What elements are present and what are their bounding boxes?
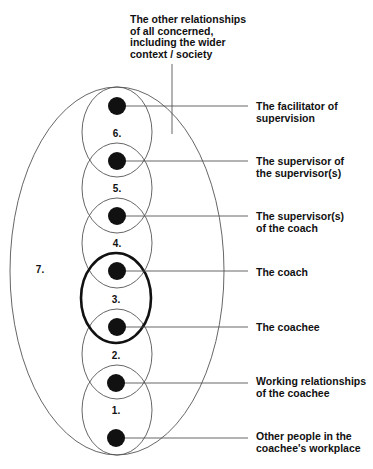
dot-supervisor-of-coach — [108, 207, 126, 225]
zone-number-1: 1. — [112, 405, 120, 416]
connector-lines — [117, 106, 248, 438]
dot-facilitator — [108, 97, 126, 115]
label-facilitator: The facilitator of supervision — [256, 100, 338, 124]
outer-context-label: The other relationships of all concerned… — [130, 14, 246, 60]
label-other-people: Other people in the coachee's workplace — [256, 430, 361, 454]
dot-other-people — [107, 429, 125, 447]
label-supervisor-of-coach: The supervisor(s) of the coach — [256, 210, 344, 234]
zone-number-6: 6. — [113, 128, 121, 139]
zone-number-3: 3. — [112, 294, 120, 305]
node-dots — [107, 97, 126, 447]
zone-number-7: 7. — [36, 264, 44, 275]
label-coach: The coach — [256, 266, 308, 278]
dot-supervisor-of-supervisor — [108, 152, 126, 170]
zone-number-4: 4. — [113, 238, 121, 249]
dot-working-relationships — [107, 374, 125, 392]
label-coachee: The coachee — [256, 321, 320, 333]
zone-number-2: 2. — [112, 350, 120, 361]
dot-coachee — [108, 318, 126, 336]
label-working-relationships: Working relationships of the coachee — [256, 375, 366, 399]
label-supervisor-of-supervisor: The supervisor of the supervisor(s) — [256, 155, 344, 179]
zone-number-5: 5. — [113, 183, 121, 194]
dot-coach — [108, 262, 126, 280]
